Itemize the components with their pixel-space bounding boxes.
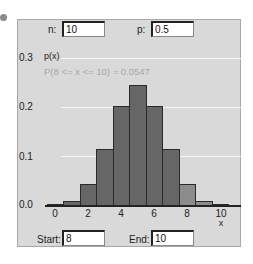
- y-tick-0.0: 0.0: [19, 199, 33, 210]
- x-tick-8: 8: [184, 208, 190, 219]
- bar-x-6: [146, 106, 164, 206]
- start-input[interactable]: [62, 230, 105, 246]
- end-input[interactable]: [151, 230, 194, 246]
- y-tick-0.1: 0.1: [19, 151, 33, 162]
- bar-x-5: [129, 85, 147, 206]
- y-axis-label: p(x): [44, 51, 60, 61]
- bar-x-3: [96, 149, 114, 206]
- x-tick-4: 4: [118, 208, 124, 219]
- x-tick-6: 6: [151, 208, 157, 219]
- y-tick-0.2: 0.2: [19, 101, 33, 112]
- p-label: p:: [137, 24, 145, 35]
- binomial-applet: n: p: 0.3 0.2 0.1 0.0 p(x) P(8 <= x <= 1…: [17, 19, 241, 247]
- end-label: End:: [129, 234, 150, 245]
- x-axis-label: x: [219, 218, 224, 228]
- start-label: Start:: [37, 234, 61, 245]
- x-axis: [45, 205, 241, 207]
- bar-x-7: [162, 149, 180, 206]
- bar-x-2: [80, 184, 98, 206]
- n-input[interactable]: [62, 21, 105, 37]
- x-tick-2: 2: [85, 208, 91, 219]
- bullet-dot: [0, 14, 7, 21]
- bar-x-8: [179, 184, 197, 206]
- n-label: n:: [48, 24, 56, 35]
- y-tick-0.3: 0.3: [19, 52, 33, 63]
- probability-text: P(8 <= x <= 10) = 0.0547: [44, 66, 150, 77]
- p-input[interactable]: [151, 21, 194, 37]
- gridline-0.3: [61, 58, 241, 59]
- bar-x-4: [113, 106, 131, 206]
- x-tick-0: 0: [52, 208, 58, 219]
